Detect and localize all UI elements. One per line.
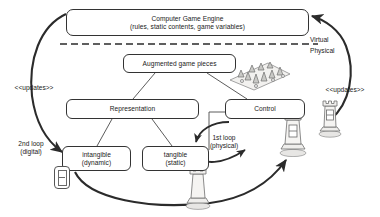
node-augmented-line1: Augmented game pieces	[143, 60, 217, 67]
node-intangible-line1: intangible	[82, 151, 111, 158]
seven-segment-display-icon	[54, 166, 70, 189]
label-second-loop-digital: 2nd loop (digital)	[4, 140, 58, 155]
label-virtual: Virtual	[310, 36, 350, 44]
label-first-loop-physical: 1st loop (physical)	[198, 134, 250, 149]
chess-rook-piece-photo	[316, 93, 344, 138]
node-intangible-dynamic[interactable]: intangible (dynamic)	[62, 146, 131, 171]
diagram-canvas: Computer Game Engine (rules, static cont…	[0, 0, 380, 217]
label-updates-right: <<updates>>	[312, 86, 378, 94]
node-engine-line2: (rules, static contents, game variables)	[130, 23, 245, 30]
node-control[interactable]: Control	[225, 99, 305, 119]
node-engine-line1: Computer Game Engine	[151, 15, 223, 22]
label-physical: Physical	[310, 47, 354, 55]
node-control-line1: Control	[254, 105, 276, 112]
connector-representation-tangible	[152, 119, 172, 146]
connector-representation-intangible	[97, 119, 112, 146]
augmented-game-board-photo	[228, 50, 292, 93]
node-tangible-line2: (static)	[165, 159, 185, 166]
node-augmented-game-pieces[interactable]: Augmented game pieces	[123, 54, 236, 73]
node-tangible-line1: tangible	[164, 151, 188, 158]
node-tangible-static[interactable]: tangible (static)	[142, 146, 209, 171]
seven-segment-digit	[58, 170, 67, 186]
node-representation[interactable]: Representation	[66, 99, 199, 119]
connector-augmented-representation	[133, 73, 155, 99]
node-representation-line1: Representation	[110, 105, 155, 112]
node-computer-game-engine[interactable]: Computer Game Engine (rules, static cont…	[66, 9, 309, 36]
label-updates-left: <<updates>>	[3, 84, 65, 92]
node-intangible-line2: (dynamic)	[82, 159, 111, 166]
arrow-second-loop-digital	[31, 14, 66, 152]
